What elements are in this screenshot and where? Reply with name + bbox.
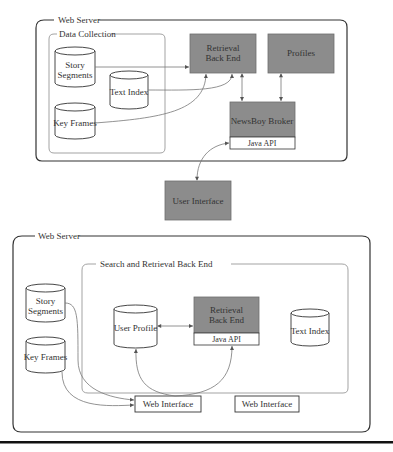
svg-text:User Profile: User Profile — [114, 323, 158, 333]
svg-text:Text Index: Text Index — [110, 87, 149, 97]
profiles-box: Profiles — [268, 34, 334, 73]
svg-text:Story: Story — [65, 60, 85, 70]
svg-text:Text Index: Text Index — [291, 326, 330, 336]
svg-text:Segments: Segments — [58, 70, 93, 80]
user-profile-database-icon: User Profile — [114, 305, 158, 348]
svg-text:Back End: Back End — [205, 53, 241, 63]
web-interface-box-1: Web Interface — [135, 396, 201, 412]
svg-text:Back End: Back End — [209, 315, 245, 325]
svg-text:Key Frames: Key Frames — [53, 118, 97, 128]
search-retrieval-label: Search and Retrieval Back End — [100, 259, 213, 269]
svg-text:Retrieval: Retrieval — [210, 305, 243, 315]
text-index-database-icon: Text Index — [110, 71, 149, 109]
web-server-label-2: Web Server — [38, 231, 80, 241]
retrieval-back-end-box-2: Retrieval Back End Java API — [194, 297, 259, 345]
web-interface-box-2: Web Interface — [235, 396, 299, 412]
data-collection-label: Data Collection — [59, 29, 116, 39]
key-frames-database-icon-2: Key Frames — [24, 337, 68, 373]
bottom-rule — [0, 441, 393, 444]
svg-text:Java API: Java API — [212, 335, 241, 344]
story-segments-database-icon: Story Segments — [55, 47, 95, 87]
text-index-database-icon-2: Text Index — [291, 309, 330, 346]
svg-text:Web Interface: Web Interface — [242, 399, 293, 409]
svg-text:Retrieval: Retrieval — [207, 43, 240, 53]
svg-text:Java API: Java API — [248, 139, 277, 148]
user-interface-box: User Interface — [165, 181, 231, 220]
svg-text:NewsBoy Broker: NewsBoy Broker — [231, 116, 294, 126]
svg-text:Key Frames: Key Frames — [24, 352, 68, 362]
svg-text:Segments: Segments — [28, 306, 63, 316]
svg-text:Profiles: Profiles — [287, 48, 315, 58]
key-frames-database-icon: Key Frames — [53, 103, 97, 139]
bottom-diagram: Web Server Search and Retrieval Back End… — [13, 231, 370, 432]
architecture-diagrams: Web Server Data Collection Story Segment… — [0, 0, 393, 452]
story-segments-database-icon-2: Story Segments — [26, 284, 65, 322]
newsboy-broker-box: NewsBoy Broker Java API — [230, 102, 295, 149]
svg-text:Story: Story — [36, 296, 56, 306]
svg-text:User Interface: User Interface — [172, 196, 223, 206]
retrieval-back-end-box: Retrieval Back End — [190, 34, 256, 73]
web-server-label: Web Server — [58, 15, 100, 25]
top-diagram: Web Server Data Collection Story Segment… — [36, 15, 347, 220]
svg-text:Web Interface: Web Interface — [143, 399, 194, 409]
